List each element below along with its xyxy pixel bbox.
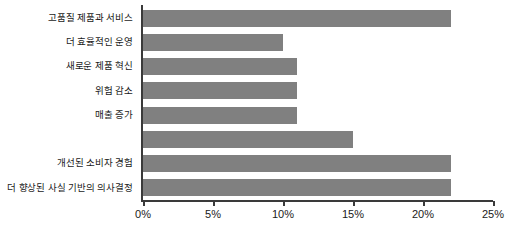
x-axis-tick-labels: 0%5%10%15%20%25% — [143, 208, 493, 228]
x-axis-ticks — [143, 201, 493, 207]
bar-series — [143, 6, 493, 200]
x-axis-tick-label: 25% — [482, 208, 504, 220]
bar-row — [143, 30, 493, 54]
bar-row — [143, 103, 493, 127]
bar-row — [143, 176, 493, 200]
bar-row — [143, 6, 493, 30]
category-label: 더 효율적인 운영 — [0, 30, 138, 54]
x-axis-tick — [283, 201, 285, 206]
x-axis-tick — [143, 201, 145, 206]
bar — [143, 179, 451, 196]
bar-row — [143, 55, 493, 79]
x-axis-tick-label: 20% — [412, 208, 434, 220]
bar — [143, 34, 283, 51]
x-axis-tick — [213, 201, 215, 206]
category-label: 더 향상된 사실 기반의 의사결정 — [0, 176, 138, 200]
category-label: 새로운 제품 혁신 — [0, 55, 138, 79]
x-axis-tick-label: 0% — [135, 208, 151, 220]
category-label: 위험 감소 — [0, 79, 138, 103]
bar-row — [143, 127, 493, 151]
category-label: 개선된 소비자 경험 — [0, 152, 138, 176]
category-label: 매출 증가 — [0, 103, 138, 127]
bar — [143, 10, 451, 27]
x-axis-tick-label: 5% — [205, 208, 221, 220]
bar — [143, 131, 353, 148]
bar-row — [143, 79, 493, 103]
category-label: 고품질 제품과 서비스 — [0, 6, 138, 30]
horizontal-bar-chart: 고품질 제품과 서비스 더 효율적인 운영 새로운 제품 혁신 위험 감소 매출… — [0, 0, 519, 233]
category-label — [0, 127, 138, 151]
x-axis-tick-label: 15% — [342, 208, 364, 220]
plot-area: 0%5%10%15%20%25% — [143, 6, 493, 200]
x-axis-tick — [493, 201, 495, 206]
bar — [143, 155, 451, 172]
x-axis-tick — [423, 201, 425, 206]
x-axis-tick-label: 10% — [272, 208, 294, 220]
x-axis-tick — [353, 201, 355, 206]
category-axis-labels: 고품질 제품과 서비스 더 효율적인 운영 새로운 제품 혁신 위험 감소 매출… — [0, 6, 138, 200]
bar — [143, 107, 297, 124]
bar — [143, 82, 297, 99]
bar — [143, 58, 297, 75]
bar-row — [143, 152, 493, 176]
